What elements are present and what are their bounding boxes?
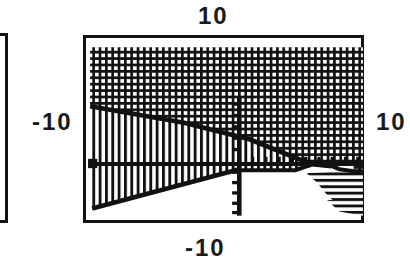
plot-frame xyxy=(83,35,364,223)
axis-label-bottom: -10 xyxy=(185,236,226,260)
x-axis-origin-marker xyxy=(88,159,97,168)
plot-canvas xyxy=(86,38,367,226)
axis-label-top: 10 xyxy=(198,4,229,28)
axis-label-left: -10 xyxy=(32,110,73,134)
region-horizontal-hatch xyxy=(307,170,363,203)
region-horizontal-hatch-right-tail xyxy=(327,198,363,216)
axis-label-right: 10 xyxy=(376,110,407,134)
adjacent-plot-partial-frame xyxy=(0,33,8,223)
figure-root: 10 -10 10 -10 xyxy=(0,0,410,266)
